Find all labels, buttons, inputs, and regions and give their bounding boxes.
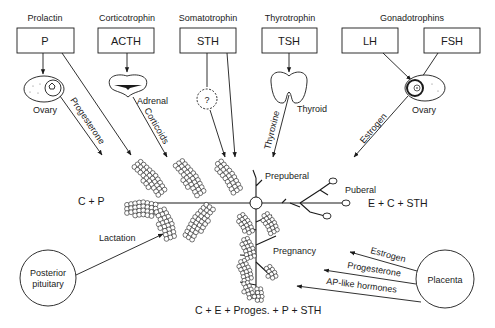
unknown-target-label: ? [204, 95, 209, 105]
adrenal-icon [109, 75, 147, 97]
formula-pregnancy: C + E + Proges. + P + STH [195, 304, 321, 316]
posterior-pituitary-label-line1: Posterior [30, 268, 66, 278]
ovary-right-label: Ovary [412, 105, 437, 115]
hormone-label: Corticotrophin [99, 13, 155, 23]
mammary-gland-hormone-diagram: Prolactin P Corticotrophin ACTH Somatotr… [0, 0, 495, 328]
progesterone-placenta-arrow-label: Progesterone [347, 260, 402, 278]
hormone-label: Somatotrophin [179, 13, 238, 23]
corticoids-arrow-label: Corticoids [142, 106, 171, 146]
progesterone-arrow-label: Progesterone [68, 96, 107, 146]
thyroid-label: Thyroid [297, 104, 327, 114]
hormone-abbr-fsh: FSH [441, 35, 463, 47]
hormone-abbr: ACTH [111, 35, 141, 47]
hormone-thyrotrophin: Thyrotrophin TSH [262, 13, 317, 53]
posterior-pituitary-label-line2: pituitary [32, 279, 64, 289]
posterior-pituitary: Posterior pituitary [20, 250, 76, 306]
hormone-label: Thyrotrophin [265, 13, 316, 23]
hormone-corticotrophin: Corticotrophin ACTH [98, 13, 155, 53]
thyroxine-arrow-label: Thyroxine [262, 110, 281, 151]
adrenal-label: Adrenal [137, 96, 168, 106]
hormone-prolactin: Prolactin P [17, 13, 74, 53]
hormone-abbr: P [41, 35, 48, 47]
hormone-abbr: STH [197, 35, 219, 47]
ap-like-arrow-label: AP-like hormones [326, 276, 398, 295]
ovary-left-icon [24, 76, 64, 102]
lactation-arrow-label: Lactation [99, 233, 136, 243]
hormone-abbr-lh: LH [363, 35, 377, 47]
placenta-label: Placenta [427, 275, 462, 285]
thyroid-icon [271, 72, 307, 103]
formula-lactation: C + P [78, 195, 105, 207]
stage-pregnancy-label: Pregnancy [273, 246, 317, 256]
hormone-label: Gonadotrophins [380, 13, 445, 23]
stage-prepuberal-label: Prepuberal [265, 171, 309, 181]
hormone-label: Prolactin [27, 13, 62, 23]
estrogen-placenta-arrow-label: Estrogen [369, 245, 406, 264]
hormone-abbr: TSH [278, 35, 300, 47]
estrogen-top-arrow-label: Estrogen [358, 111, 389, 145]
formula-puberal: E + C + STH [368, 197, 428, 209]
ovary-right-icon [405, 75, 445, 101]
hormone-somatotrophin: Somatotrophin STH [179, 13, 238, 53]
ovary-left-label: Ovary [33, 105, 58, 115]
stage-puberal-label: Puberal [345, 185, 376, 195]
hormone-gonadotrophins: Gonadotrophins LH FSH [342, 13, 480, 53]
placenta: Placenta [416, 250, 474, 308]
